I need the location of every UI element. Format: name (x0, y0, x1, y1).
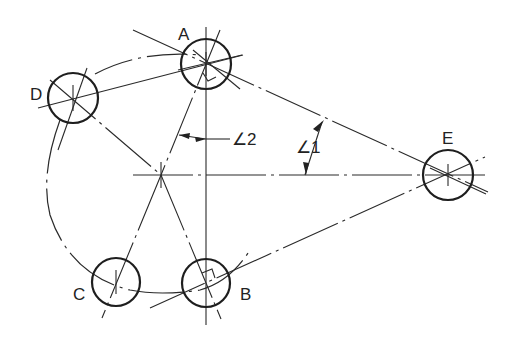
construction-arc-left (95, 54, 200, 74)
right-angle-mark-A (203, 73, 216, 81)
belt-line-D-A (38, 55, 243, 108)
radial-O-D (50, 80, 161, 175)
radial-O-B (161, 175, 221, 319)
angle2-dimension (179, 133, 230, 142)
label-E: E (442, 129, 453, 148)
angle1-arrow-bottom (303, 162, 309, 175)
diagram-canvas: A B C D E ∠2 ∠1 (0, 0, 520, 342)
label-angle1: ∠1 (296, 138, 320, 157)
line-A-secondary (193, 50, 240, 89)
radial-O-A (161, 30, 220, 175)
pulley-C (92, 258, 140, 306)
right-angle-mark-B (202, 269, 215, 278)
label-B: B (240, 285, 251, 304)
label-angle2: ∠2 (232, 130, 256, 149)
label-C: C (73, 285, 85, 304)
belt-line-A-E (133, 30, 488, 192)
line-E-aux (430, 168, 486, 194)
angle1-arrow-top (313, 120, 324, 132)
label-D: D (30, 85, 42, 104)
belt-line-B-E (150, 157, 485, 308)
line-A-tangent (178, 55, 242, 70)
label-A: A (178, 25, 190, 44)
radial-O-C (102, 175, 161, 318)
pulley-D (48, 73, 98, 123)
angle2-arrow-left (179, 133, 190, 139)
